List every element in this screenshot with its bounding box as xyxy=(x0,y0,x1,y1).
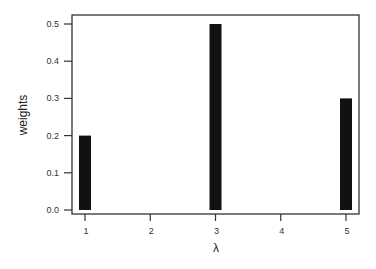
x-tick-label: 5 xyxy=(344,226,349,236)
x-tick-label: 1 xyxy=(83,226,88,236)
bar-1 xyxy=(79,136,91,210)
y-axis-label: weights xyxy=(16,95,30,137)
y-tick-label: 0.5 xyxy=(46,19,59,29)
bar-3 xyxy=(210,24,222,210)
y-tick-label: 0.3 xyxy=(46,93,59,103)
x-tick-label: 3 xyxy=(214,226,219,236)
x-tick-label: 2 xyxy=(149,226,154,236)
y-tick-label: 0.4 xyxy=(46,56,59,66)
x-axis-label: λ xyxy=(213,241,219,255)
x-tick-label: 4 xyxy=(279,226,284,236)
bar-chart: 0.00.10.20.30.40.5 12345 weights λ xyxy=(0,0,376,269)
bar-5 xyxy=(340,98,352,210)
y-tick-label: 0.1 xyxy=(46,168,59,178)
y-tick-label: 0.2 xyxy=(46,131,59,141)
y-tick-label: 0.0 xyxy=(46,205,59,215)
